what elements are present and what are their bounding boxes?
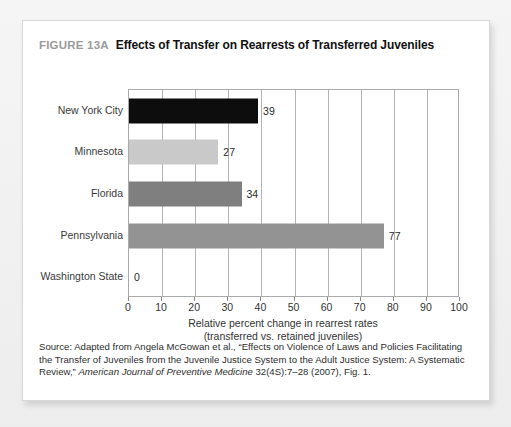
plot-area: 392734770 — [128, 89, 459, 297]
bar — [129, 182, 242, 207]
category-label: Minnesota — [75, 145, 123, 157]
figure-card: FIGURE 13AEffects of Transfer on Rearres… — [22, 20, 490, 401]
category-axis-labels: New York CityMinnesotaFloridaPennsylvani… — [23, 89, 127, 297]
bar-value-label: 0 — [134, 271, 140, 283]
bar-value-label: 34 — [247, 188, 259, 200]
page-title: Effects of Transfer on Rearrests of Tran… — [116, 38, 434, 52]
x-axis-ticks: 0102030405060708090100 — [128, 297, 459, 313]
gridline — [328, 90, 329, 296]
tick-label: 10 — [155, 301, 167, 313]
tick-label: 90 — [420, 301, 432, 313]
source-suffix: 32(4S):7–28 (2007), Fig. 1. — [253, 366, 371, 377]
tick-label: 80 — [387, 301, 399, 313]
bar-chart: New York CityMinnesotaFloridaPennsylvani… — [23, 65, 491, 335]
gridline — [261, 90, 262, 296]
tick-label: 20 — [188, 301, 200, 313]
tick-label: 60 — [321, 301, 333, 313]
tick-label: 100 — [450, 301, 468, 313]
category-label: Washington State — [41, 270, 124, 282]
bar — [129, 223, 384, 248]
bar-value-label: 77 — [389, 230, 401, 242]
tick-label: 50 — [288, 301, 300, 313]
source-journal: American Journal of Preventive Medicine — [78, 366, 252, 377]
bar — [129, 140, 218, 165]
x-axis-title-line1: Relative percent change in rearrest rate… — [83, 317, 483, 330]
bar-value-label: 39 — [263, 105, 275, 117]
tick-label: 70 — [354, 301, 366, 313]
bar-value-label: 27 — [223, 146, 235, 158]
category-label: Florida — [91, 187, 123, 199]
category-label: Pennsylvania — [61, 229, 123, 241]
gridline — [394, 90, 395, 296]
tick-label: 0 — [125, 301, 131, 313]
tick-label: 30 — [221, 301, 233, 313]
gridline — [427, 90, 428, 296]
tick-label: 40 — [255, 301, 267, 313]
source-note: Source: Adapted from Angela McGowan et a… — [39, 341, 477, 379]
gridline — [295, 90, 296, 296]
figure-title: FIGURE 13AEffects of Transfer on Rearres… — [39, 35, 434, 53]
bar — [129, 98, 258, 123]
x-axis-title: Relative percent change in rearrest rate… — [83, 317, 483, 343]
gridline — [361, 90, 362, 296]
figure-number: FIGURE 13A — [39, 39, 109, 51]
category-label: New York City — [58, 104, 123, 116]
